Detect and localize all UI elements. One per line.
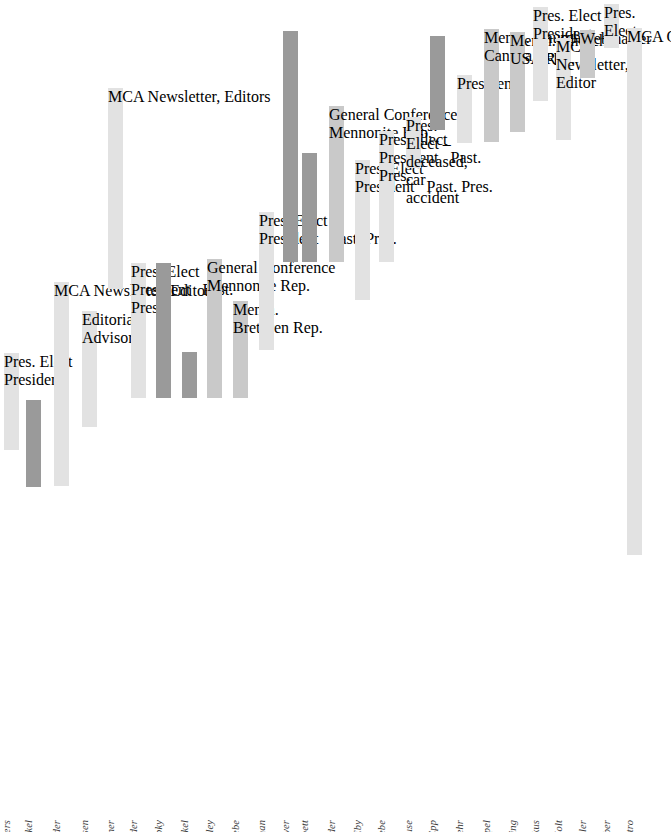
person-name-label: Linford King [506, 818, 520, 832]
role-label-group: MCA Newsletter, Editors [108, 88, 124, 289]
person-name-label: Joyce Schimpky [152, 818, 166, 832]
role-label-group: MCA Newsletter, Editor [556, 38, 572, 140]
person-column: MCA Office Secretary & Book-keeping Serv… [623, 0, 651, 832]
role-bar [430, 36, 445, 130]
role-bar [302, 153, 317, 262]
role-label-group: President [457, 75, 473, 143]
person-name-label: Kyle Barber [600, 818, 614, 832]
role-label: MCA Office Secretary & Book-keeping Serv… [627, 28, 671, 46]
person-name-label: Don Rittenhouse [402, 818, 416, 832]
person-name-label: Mary Jane Eby [351, 818, 365, 832]
person-column: Joyce Schimpky [152, 0, 180, 832]
person-name-label: Jerry Markus [529, 818, 543, 832]
person-column: Pres. Elect President Past. Pres.Robert … [127, 0, 155, 832]
role-label-group: Pres. Elect – deceased, car accident [406, 117, 422, 168]
person-name-label: Bob Wiebe [375, 818, 389, 832]
person-name-label: David Wiebe [229, 818, 243, 832]
person-name-label: Campbell Nisbett [298, 818, 312, 832]
person-name-label: Keith Zehr [453, 818, 467, 832]
role-label-group: Webmaster [580, 30, 596, 78]
person-name-label: Evon Castro [623, 818, 637, 832]
role-label-group: Pres. Elect [604, 4, 620, 48]
person-name-label: Mark Hartman Souder [50, 818, 64, 832]
person-column: Pres. Elect President Past. Pres.Bob Wie… [375, 0, 403, 832]
role-label-group: Memn. Brethren Rep. [233, 301, 249, 398]
person-name-label: Eleanor Snyder [325, 818, 339, 832]
person-column: Denise Nickel [22, 0, 50, 832]
role-label-group: Pres. Elect President Past. Pres. [379, 131, 395, 262]
person-name-label: Tim Lehman [255, 818, 269, 832]
role-bar [26, 400, 41, 487]
person-name-label: Dana Sommers [0, 818, 14, 832]
person-name-label: Robert Bender [127, 818, 141, 832]
role-label-group: MCA Office Secretary & Book-keeping Serv… [627, 28, 643, 555]
person-column: Denise Nickel [178, 0, 206, 832]
person-column: Memn. Church Canada Rep.Elsie Rempel [480, 0, 508, 832]
person-name-label: Ken Hawkley [203, 818, 217, 832]
role-label-group: Pres. Elect President [4, 353, 20, 450]
person-name-label: Susan Bartel & Cliff Derksen [78, 818, 92, 832]
person-column: PresidentKeith Zehr [453, 0, 481, 832]
role-label-group: Pres. Elect President [533, 7, 549, 101]
role-label-group: Pres. Elect President Past. Pres. [355, 160, 371, 300]
person-column: Campbell Nisbett [298, 0, 326, 832]
gantt-timeline-chart: Pres. Elect PresidentDana SommersDenise … [0, 0, 671, 832]
role-label-group: Editorial Advisors [82, 311, 98, 427]
role-label-group: General Conference Mennonite Rep. [207, 259, 223, 398]
person-column: General Conference Mennonite Rep.Eleanor… [325, 0, 353, 832]
role-label-group: Memn. Church Canada Rep. [484, 29, 500, 142]
role-label-group: Pres. Elect President Past. Pres. [131, 263, 147, 398]
person-name-label: Laurie Weaver [279, 818, 293, 832]
person-column: MCA Newsletter, EditorMark Hartman Soude… [50, 0, 78, 832]
person-column: Christine Epp [426, 0, 454, 832]
role-label-group: MCA Newsletter, Editor [54, 282, 70, 486]
person-name-label: Jim & Julie Penner [104, 818, 118, 832]
person-name-label: Denise Nickel [22, 818, 36, 832]
person-column: Memn. Brethren Rep.David Wiebe [229, 0, 257, 832]
role-bar [156, 263, 171, 398]
person-name-label: Elsie Rempel [480, 818, 494, 832]
role-label-group: Memn. Church USA Rep. [510, 32, 526, 132]
role-bar [283, 31, 298, 262]
person-name-label: Denise Nickel [178, 818, 192, 832]
person-name-label: Grace Nolt [552, 818, 566, 832]
person-name-label: Christine Epp [426, 818, 440, 832]
role-label-group: General Conference Mennonite Rep. [329, 106, 345, 262]
role-bar [182, 352, 197, 398]
role-label-group: Pres. Elect President Past. Pres. [259, 212, 275, 350]
person-column: Editorial AdvisorsSusan Bartel & Cliff D… [78, 0, 106, 832]
person-column: General Conference Mennonite Rep.Ken Haw… [203, 0, 231, 832]
person-name-label: Daniel R. Ziegler [576, 818, 590, 832]
